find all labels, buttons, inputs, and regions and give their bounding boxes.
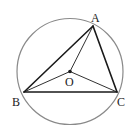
label-a: A: [91, 11, 100, 25]
segment-ca: [93, 26, 117, 92]
center-point-o: [68, 70, 72, 74]
segment-ob: [24, 72, 70, 93]
label-c: C: [117, 95, 125, 109]
segment-oa: [70, 26, 93, 72]
label-b: B: [12, 95, 20, 109]
segment-ab: [24, 26, 93, 92]
geometry-diagram: A B C O: [0, 0, 135, 134]
label-o: O: [65, 75, 74, 89]
